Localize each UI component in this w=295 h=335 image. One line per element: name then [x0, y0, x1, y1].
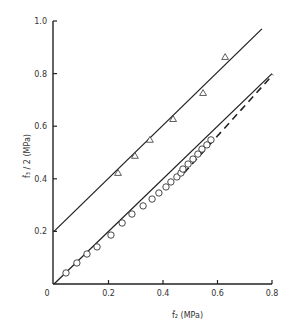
data-markers — [63, 54, 229, 277]
circle-marker — [208, 137, 214, 143]
x-tick-label: 0.6 — [211, 289, 224, 298]
lower-dashed-line — [184, 75, 273, 173]
circle-marker — [74, 260, 80, 266]
y-tick-label: 0.4 — [34, 175, 47, 184]
y-tick-label: 0.2 — [34, 227, 47, 236]
y-tick-label: 0.6 — [34, 122, 47, 131]
tick-labels: 0.20.40.60.800.20.40.60.81.0 — [34, 17, 278, 298]
circle-marker — [94, 244, 100, 250]
circle-marker — [149, 196, 155, 202]
triangle-marker — [147, 136, 154, 142]
upper-fit-line — [54, 29, 262, 232]
chart: 0.20.40.60.800.20.40.60.81.0 f̂₂ (MPa) f… — [0, 0, 295, 335]
x-tick-label: 0.2 — [102, 289, 115, 298]
circle-marker — [63, 270, 69, 276]
circle-marker — [168, 179, 174, 185]
circle-marker — [108, 232, 114, 238]
circle-marker — [163, 184, 169, 190]
axes — [53, 21, 272, 284]
x-tick-label: 0.4 — [157, 289, 170, 298]
circle-marker — [84, 251, 90, 257]
circle-marker — [156, 190, 162, 196]
circle-marker — [119, 220, 125, 226]
y-tick-label: 0.8 — [34, 70, 47, 79]
x-axis-label: f̂₂ (MPa) — [172, 310, 203, 320]
y-axis-label: f̂₃ / 2 (MPa) — [22, 134, 32, 178]
y-tick-label: 1.0 — [34, 17, 47, 26]
circle-marker — [129, 211, 135, 217]
circle-marker — [140, 203, 146, 209]
circle-marker — [185, 161, 191, 167]
fit-lines — [54, 29, 273, 284]
triangle-marker — [200, 90, 207, 96]
ticks — [53, 21, 272, 284]
origin-label: 0 — [44, 289, 49, 298]
triangle-marker — [222, 54, 229, 60]
x-tick-label: 0.8 — [266, 289, 279, 298]
circle-marker — [190, 156, 196, 162]
circle-marker — [180, 166, 186, 172]
